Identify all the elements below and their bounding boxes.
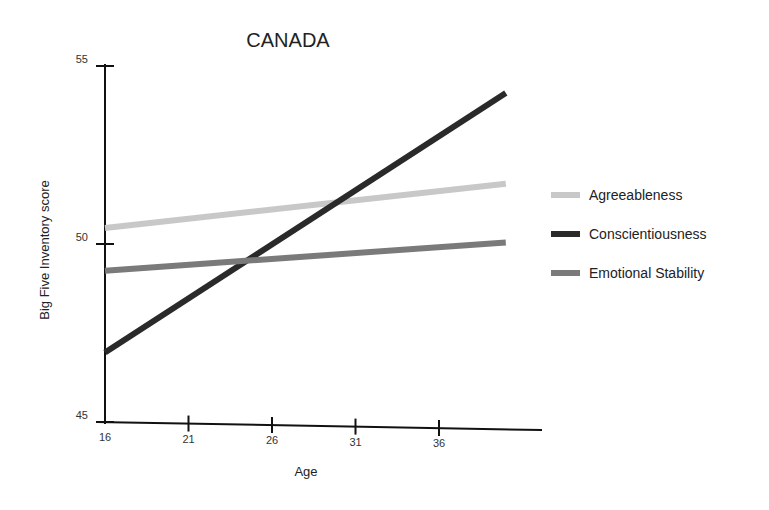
legend-label: Conscientiousness	[589, 226, 707, 242]
y-tick-label: 55	[76, 53, 88, 65]
legend: AgreeablenessConscientiousnessEmotional …	[551, 187, 707, 281]
chart: CANADA 455055 1621263136 Big Five Invent…	[0, 0, 769, 510]
x-tick-label: 36	[433, 437, 445, 449]
legend-swatch	[551, 192, 580, 198]
y-ticks: 455055	[76, 53, 114, 422]
series-line-emotional-stability	[105, 242, 506, 270]
legend-item: Emotional Stability	[551, 265, 704, 281]
x-ticks: 1621263136	[99, 416, 445, 450]
series-lines	[105, 93, 506, 353]
x-axis-label: Age	[294, 464, 317, 479]
y-tick-label: 45	[76, 409, 88, 421]
y-tick-label: 50	[76, 231, 88, 243]
x-axis	[96, 422, 542, 430]
x-tick-label: 31	[349, 436, 361, 448]
legend-item: Agreeableness	[551, 187, 682, 203]
x-tick-label: 16	[99, 431, 111, 443]
legend-swatch	[551, 270, 580, 276]
legend-label: Agreeableness	[589, 187, 682, 203]
x-tick-label: 21	[182, 433, 194, 445]
x-tick-label: 26	[266, 434, 278, 446]
legend-item: Conscientiousness	[551, 226, 707, 242]
legend-label: Emotional Stability	[589, 265, 704, 281]
legend-swatch	[551, 231, 580, 237]
y-axis-label: Big Five Inventory score	[37, 180, 52, 319]
chart-title: CANADA	[246, 29, 330, 51]
